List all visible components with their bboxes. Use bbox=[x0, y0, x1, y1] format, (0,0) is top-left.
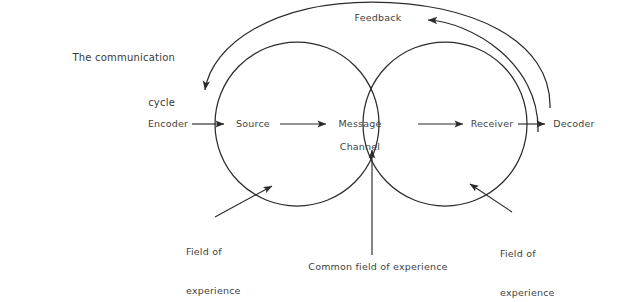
feedback-arc-inner bbox=[428, 20, 538, 132]
label-feedback: Feedback bbox=[348, 11, 408, 24]
pointer-field-of-experience-right bbox=[470, 184, 512, 212]
page-title-line-1: The communication bbox=[30, 50, 175, 65]
label-encoder: Encoder bbox=[142, 117, 194, 130]
label-decoder: Decoder bbox=[548, 117, 600, 130]
label-source: Source bbox=[230, 117, 276, 130]
page-title-line-2: cycle bbox=[30, 95, 175, 110]
label-channel: Channel bbox=[330, 140, 390, 153]
pointer-field-of-experience-left bbox=[215, 186, 272, 217]
label-message: Message bbox=[330, 117, 390, 130]
label-common-field-of-experience: Common field of experience bbox=[288, 260, 468, 273]
label-field-of-experience-right-line-2: experience bbox=[500, 286, 570, 299]
label-field-of-experience-left-line-2: experience bbox=[186, 284, 256, 297]
label-field-of-experience-right-line-1: Field of bbox=[500, 247, 570, 260]
label-receiver: Receiver bbox=[466, 117, 518, 130]
label-field-of-experience-left: Field of experience bbox=[186, 219, 256, 302]
label-field-of-experience-left-line-1: Field of bbox=[186, 245, 256, 258]
label-field-of-experience-right: Field of experience bbox=[500, 221, 570, 302]
